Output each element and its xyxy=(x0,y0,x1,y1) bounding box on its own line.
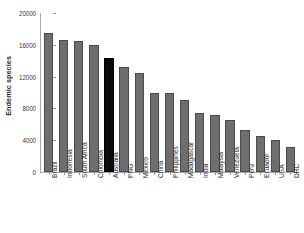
x-tick-mark xyxy=(170,172,171,175)
x-tick-label: Colombia xyxy=(97,150,104,178)
bar[interactable] xyxy=(119,67,128,172)
x-tick-mark xyxy=(200,172,201,175)
y-tick-label: 4000 xyxy=(22,137,36,144)
bar-slot xyxy=(207,13,222,172)
bar-slot xyxy=(283,13,298,172)
bar-chart: Endemic species 040008000120001600020000… xyxy=(0,0,304,233)
bar[interactable] xyxy=(44,33,53,172)
x-tick-mark xyxy=(215,172,216,175)
x-tick-mark xyxy=(94,172,95,175)
x-tick-label: Malaysia xyxy=(217,152,224,178)
y-axis-title-label: Endemic species xyxy=(4,56,13,116)
x-tick-label: Mexico xyxy=(142,157,149,178)
x-tick-label: Australia xyxy=(112,152,119,178)
x-tick-label: Ecuador xyxy=(263,153,270,178)
x-tick-mark xyxy=(124,172,125,175)
x-tick-mark xyxy=(185,172,186,175)
y-tick-label: 20000 xyxy=(19,10,36,17)
bar-slot xyxy=(41,13,56,172)
x-axis-labels: BrazilIndonesiaSouth AfricaColombiaAustr… xyxy=(41,174,298,233)
x-tick-mark xyxy=(64,172,65,175)
bar-slot xyxy=(117,13,132,172)
bar-slot xyxy=(132,13,147,172)
x-tick-mark xyxy=(275,172,276,175)
x-tick-label: India xyxy=(202,164,209,178)
x-tick-label: USA xyxy=(278,164,285,178)
x-tick-label: China xyxy=(157,161,164,178)
x-tick-label: DRC xyxy=(293,164,300,178)
x-tick-label: Venezuela xyxy=(233,147,240,178)
bar-slot xyxy=(192,13,207,172)
x-tick-mark xyxy=(154,172,155,175)
x-tick-label: Philippines xyxy=(172,146,179,178)
bar-slot xyxy=(86,13,101,172)
bar-slot xyxy=(268,13,283,172)
x-tick-label: Indonesia xyxy=(66,149,73,178)
x-tick-mark xyxy=(260,172,261,175)
x-tick-label: Madagascar xyxy=(187,142,194,178)
x-tick-label: PNG xyxy=(127,164,134,178)
x-tick-mark xyxy=(79,172,80,175)
y-axis-ticks: 040008000120001600020000 xyxy=(16,0,38,233)
x-tick-mark xyxy=(290,172,291,175)
y-axis-title: Endemic species xyxy=(0,0,16,172)
bar-slot xyxy=(101,13,116,172)
x-tick-mark xyxy=(109,172,110,175)
x-tick-mark xyxy=(139,172,140,175)
x-tick-label: Peru xyxy=(248,164,255,178)
y-tick-label: 8000 xyxy=(22,105,36,112)
x-tick-mark xyxy=(245,172,246,175)
x-tick-label: Brazil xyxy=(51,162,58,179)
plot-area xyxy=(41,13,298,172)
x-tick-mark xyxy=(230,172,231,175)
bar-slot xyxy=(147,13,162,172)
y-tick-label: 0 xyxy=(33,169,36,176)
y-tick-label: 16000 xyxy=(19,41,36,48)
y-tick-label: 12000 xyxy=(19,73,36,80)
x-tick-label: South Africa xyxy=(81,142,88,178)
bar-slot xyxy=(253,13,268,172)
x-tick-mark xyxy=(49,172,50,175)
